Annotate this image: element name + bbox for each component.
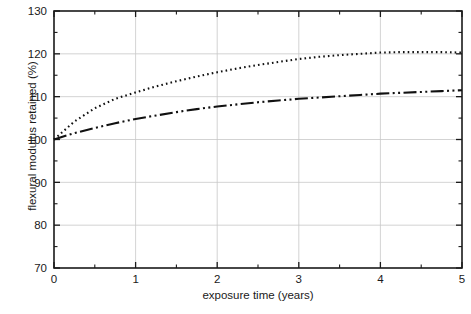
chart-figure: 012345 708090100110120130 flexural modul… — [0, 0, 471, 314]
data-series-dotted — [54, 52, 462, 139]
y-axis-title: flexural modulus retained (%) — [26, 16, 38, 256]
data-series-layer — [54, 52, 462, 139]
x-tick-label: 3 — [296, 273, 302, 285]
grid-lines — [54, 11, 462, 268]
x-tick-label: 4 — [377, 273, 384, 285]
x-tick-label: 2 — [214, 273, 220, 285]
line-chart-plot: 012345 708090100110120130 — [0, 0, 471, 314]
data-series-dash-dot-dot — [54, 90, 462, 139]
x-tick-label: 1 — [132, 273, 138, 285]
x-axis-title: exposure time (years) — [54, 289, 462, 301]
x-tick-label: 5 — [459, 273, 465, 285]
x-tick-label: 0 — [51, 273, 57, 285]
x-tick-labels: 012345 — [51, 273, 465, 285]
y-tick-label: 70 — [34, 262, 47, 274]
